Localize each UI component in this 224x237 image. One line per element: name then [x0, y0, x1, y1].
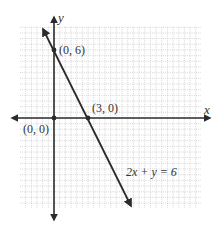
equation-label: 2x + y = 6 [126, 165, 177, 179]
point-0-0-label: (0, 0) [23, 122, 49, 136]
point-origin [52, 116, 57, 121]
coordinate-graph: y x (0, 6) (3, 0) (0, 0) 2x + y = 6 [0, 0, 224, 237]
point-3-0-label: (3, 0) [92, 101, 118, 115]
x-axis-label: x [203, 102, 210, 117]
point-0-6-label: (0, 6) [59, 43, 85, 57]
point-0-6 [52, 48, 57, 53]
y-axis-label: y [56, 10, 64, 25]
point-3-0 [86, 116, 91, 121]
